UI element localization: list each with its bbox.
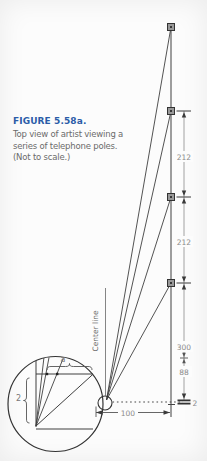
inset-magnifier: a 2: [8, 355, 103, 452]
inset-brace-2: [24, 378, 30, 423]
dim-100-group: 100: [96, 407, 170, 418]
pole-marker-2: [168, 108, 175, 115]
main-diagram: 212 212 300 88 2 Center line 100: [91, 24, 198, 418]
dim-label-212-lower: 212: [177, 238, 192, 247]
inset-a-label: a: [61, 355, 66, 364]
dim-label-88: 88: [179, 368, 189, 377]
sightline-pole-3: [107, 197, 172, 400]
inset-crossing-dot-1: [46, 373, 48, 375]
inset-2-label: 2: [16, 394, 21, 403]
inset-circle: [8, 357, 103, 452]
dim-label-2: 2: [193, 399, 198, 408]
book-figure-page: FIGURE 5.58a. Top view of artist viewing…: [0, 0, 207, 461]
dim-100-arrow-left: [96, 410, 103, 415]
center-line-label: Center line: [91, 310, 100, 352]
inset-brace-a: [47, 364, 92, 371]
sightline-pole-2: [107, 111, 172, 400]
dim-label-212-upper: 212: [177, 153, 192, 162]
sightline-pole-1: [107, 27, 172, 400]
perspective-diagram: a 2: [0, 0, 207, 461]
inset-crossing-dot-2: [56, 373, 58, 375]
pole-marker-3: [168, 194, 175, 201]
dim-2-tick-upper: [178, 400, 191, 402]
pole-marker-4: [168, 280, 175, 287]
dim-label-300: 300: [177, 343, 192, 352]
dim-2-tick-lower: [178, 403, 191, 405]
dim-label-100: 100: [121, 409, 136, 418]
artist-circle: [98, 396, 112, 410]
dim-100-arrow-right: [164, 410, 171, 415]
pole-marker-1: [168, 24, 175, 31]
